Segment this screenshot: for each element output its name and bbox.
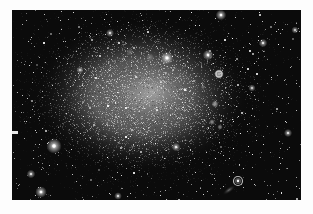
- galaxy-photo-canvas: [12, 10, 301, 200]
- photo-frame: [12, 10, 301, 200]
- scanned-photo-page: [0, 0, 313, 214]
